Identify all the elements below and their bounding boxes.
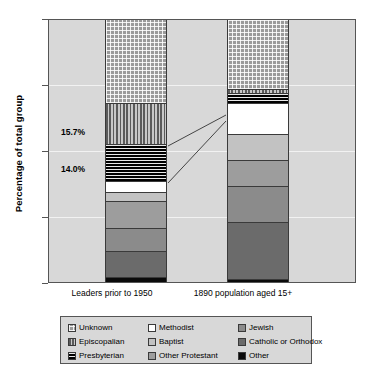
legend-item-jewish[interactable]: Jewish	[238, 321, 320, 335]
stacked-bar-chart: Percentage of total group 100 75 50 25 0	[0, 0, 371, 380]
segment-other-protestant[interactable]	[106, 201, 166, 229]
legend-label: Episcopalian	[79, 338, 124, 346]
segment-baptist[interactable]	[106, 192, 166, 201]
segment-jewish[interactable]	[106, 228, 166, 250]
segment-other[interactable]	[228, 279, 288, 282]
legend-item-catholic-or-orthodox[interactable]: Catholic or Orthodox	[238, 335, 320, 349]
segment-connector-lines	[49, 20, 357, 284]
catholic-or-orthodox-swatch-icon	[238, 338, 246, 346]
segment-presbyterian[interactable]	[228, 93, 288, 102]
legend-label: Jewish	[249, 324, 273, 332]
bar-1890-population-aged-15-plus[interactable]	[227, 20, 289, 282]
legend-item-episcopalian[interactable]: Episcopalian	[68, 335, 148, 349]
annotation-presbyterian-percent: 14.0%	[61, 164, 85, 174]
segment-methodist[interactable]	[228, 103, 288, 134]
segment-unknown[interactable]	[106, 20, 166, 103]
segment-catholic-or-orthodox[interactable]	[106, 251, 166, 277]
legend-label: Other Protestant	[159, 352, 218, 360]
presbyterian-swatch-icon	[68, 352, 76, 360]
episcopalian-swatch-icon	[68, 338, 76, 346]
annotation-episcopalian-percent: 15.7%	[61, 127, 85, 137]
y-tick-mark-0	[42, 283, 48, 284]
unknown-swatch-icon	[68, 324, 76, 332]
methodist-swatch-icon	[148, 324, 156, 332]
legend-item-unknown[interactable]: Unknown	[68, 321, 148, 335]
legend-item-baptist[interactable]: Baptist	[148, 335, 238, 349]
legend-label: Other	[249, 352, 269, 360]
legend-label: Methodist	[159, 324, 194, 332]
segment-unknown[interactable]	[228, 20, 288, 89]
gridline-50	[49, 151, 355, 152]
legend-item-other[interactable]: Other	[238, 349, 320, 363]
plot-area	[48, 19, 356, 283]
legend-label: Baptist	[159, 338, 183, 346]
y-axis-title: Percentage of total group	[13, 54, 24, 254]
legend-item-presbyterian[interactable]: Presbyterian	[68, 349, 148, 363]
segment-catholic-or-orthodox[interactable]	[228, 222, 288, 280]
gridline-75	[49, 85, 355, 86]
bar-leaders-prior-to-1950[interactable]	[105, 20, 167, 282]
segment-presbyterian[interactable]	[106, 144, 166, 181]
segment-jewish[interactable]	[228, 186, 288, 221]
other-protestant-swatch-icon	[148, 352, 156, 360]
x-axis-label-leaders: Leaders prior to 1950	[52, 288, 172, 298]
legend-label: Catholic or Orthodox	[249, 338, 322, 346]
segment-episcopalian[interactable]	[106, 103, 166, 144]
segment-baptist[interactable]	[228, 134, 288, 160]
x-axis-label-population: 1890 population aged 15+	[176, 288, 310, 298]
baptist-swatch-icon	[148, 338, 156, 346]
legend-label: Unknown	[79, 324, 112, 332]
jewish-swatch-icon	[238, 324, 246, 332]
legend-item-other-protestant[interactable]: Other Protestant	[148, 349, 238, 363]
segment-other-protestant[interactable]	[228, 160, 288, 186]
legend: Unknown Methodist Jewish Episcopalian Ba…	[60, 316, 312, 364]
legend-item-methodist[interactable]: Methodist	[148, 321, 238, 335]
legend-label: Presbyterian	[79, 352, 124, 360]
segment-other[interactable]	[106, 277, 166, 282]
gridline-25	[49, 217, 355, 218]
other-swatch-icon	[238, 352, 246, 360]
segment-methodist[interactable]	[106, 181, 166, 191]
